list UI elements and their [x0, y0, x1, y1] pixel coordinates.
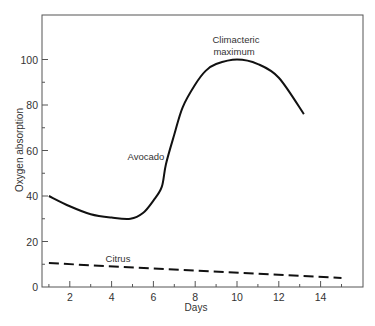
y-axis-title: Oxygen absorption [14, 108, 25, 192]
y-tick-label: 60 [26, 145, 38, 157]
data-series [49, 60, 342, 278]
axis-ticks [42, 60, 342, 288]
x-tick-label: 4 [109, 291, 115, 303]
x-tick-label: 2 [67, 291, 73, 303]
climacteric-label-line2: maximum [213, 46, 254, 57]
y-tick-label: 40 [26, 190, 38, 202]
avocado-line [49, 60, 304, 220]
citrus-line [49, 263, 342, 278]
y-tick-label: 80 [26, 99, 38, 111]
y-tick-label: 0 [32, 281, 38, 293]
x-tick-label: 10 [231, 291, 243, 303]
x-tick-label: 6 [150, 291, 156, 303]
y-tick-label: 20 [26, 236, 38, 248]
x-tick-label: 14 [315, 291, 327, 303]
climacteric-label-line1: Climacteric [213, 34, 260, 45]
y-tick-label: 100 [20, 54, 38, 66]
oxygen-absorption-chart: 2468101214020406080100 Avocado Citrus Cl… [0, 0, 375, 326]
x-axis-title: Days [185, 302, 208, 313]
plot-frame [42, 15, 363, 287]
avocado-label: Avocado [128, 151, 165, 162]
citrus-label: Citrus [106, 253, 131, 264]
x-tick-label: 12 [273, 291, 285, 303]
axis-tick-labels: 2468101214020406080100 [20, 54, 326, 304]
